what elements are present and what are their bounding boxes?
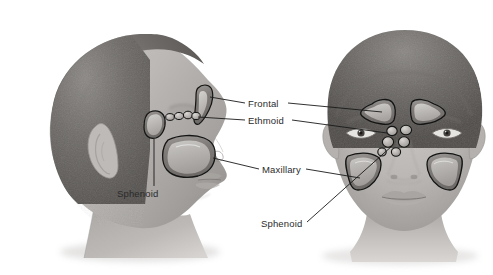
frontal-nostril-left (391, 175, 398, 179)
label-frontal-sinus: Frontal (248, 98, 279, 109)
frontal-head-view (322, 26, 488, 265)
anatomy-illustration (0, 0, 493, 275)
frontal-nostril-right (411, 175, 418, 179)
lateral-maxillary-sinus (163, 136, 216, 178)
label-sphenoid-sinus-lateral: Sphenoid (117, 188, 158, 199)
sinus-anatomy-figure: Frontal Ethmoid Maxillary Sphenoid Sphen… (0, 0, 493, 275)
lateral-head-view (40, 28, 227, 262)
label-maxillary-sinus: Maxillary (262, 164, 301, 175)
label-sphenoid-sinus-frontal: Sphenoid (261, 218, 302, 229)
label-ethmoid-sinus: Ethmoid (248, 115, 284, 126)
